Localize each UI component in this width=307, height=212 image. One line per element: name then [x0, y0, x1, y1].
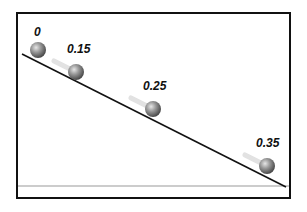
ball: [30, 42, 46, 58]
motion-trail: [54, 61, 70, 69]
time-label: 0.25: [143, 79, 167, 93]
ball: [68, 64, 84, 80]
motion-trail: [245, 155, 261, 163]
ball: [259, 158, 275, 174]
inclined-plane-diagram: 00.150.250.35: [0, 0, 307, 212]
time-label: 0: [34, 25, 41, 39]
ball: [145, 101, 161, 117]
time-label: 0.35: [256, 136, 280, 150]
time-label: 0.15: [67, 42, 91, 56]
incline-line: [22, 54, 286, 187]
motion-trail: [131, 98, 147, 106]
ball-group: 00.150.250.35: [30, 25, 280, 174]
